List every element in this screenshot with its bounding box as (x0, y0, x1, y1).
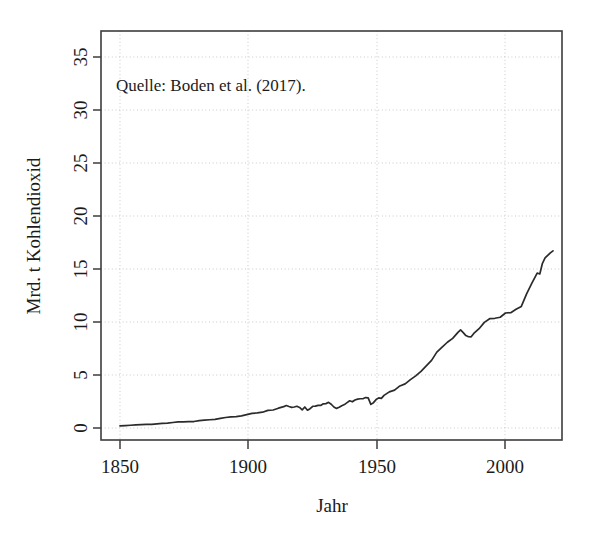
y-tick-label-30: 30 (70, 101, 91, 120)
y-tick-label-35: 35 (70, 48, 91, 67)
y-tick-label-15: 15 (70, 260, 91, 279)
y-axis-title: Mrd. t Kohlendioxid (23, 157, 44, 314)
x-tick-label-1900: 1900 (229, 456, 267, 477)
y-tick-label-0: 0 (70, 423, 91, 433)
x-tick-label-1950: 1950 (358, 456, 396, 477)
y-tick-label-10: 10 (70, 313, 91, 332)
x-tick-label-1850: 1850 (101, 456, 139, 477)
x-axis-title: Jahr (316, 495, 348, 516)
y-tick-label-5: 5 (70, 370, 91, 380)
y-tick-label-25: 25 (70, 154, 91, 173)
y-tick-label-20: 20 (70, 207, 91, 226)
source-annotation: Quelle: Boden et al. (2017). (116, 76, 306, 95)
co2-emissions-line-chart: 35 30 25 20 15 10 5 0 1850 1900 1950 200… (0, 0, 592, 535)
chart-figure: 35 30 25 20 15 10 5 0 1850 1900 1950 200… (0, 0, 592, 535)
x-tick-label-2000: 2000 (486, 456, 524, 477)
